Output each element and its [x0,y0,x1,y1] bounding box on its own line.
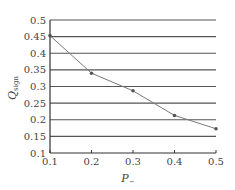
y-tick-label: 0.35 [24,64,46,75]
data-point [48,34,52,38]
y-tick-label: 0.3 [30,81,46,92]
y-tick-label: 0.2 [30,114,46,125]
y-tick-label: 0.5 [30,15,46,26]
data-point [131,89,135,93]
x-tick-labels: 0.10.20.30.40.5 [42,156,224,167]
horizontal-gridlines [50,20,216,136]
series-line [50,36,216,129]
x-tick-label: 0.4 [167,156,183,167]
y-axis-label: Qsign [6,76,20,100]
y-tick-label: 0.4 [30,48,46,59]
x-tick-label: 0.2 [84,156,100,167]
x-axis-label: P− [120,172,134,186]
x-tick-label: 0.1 [42,156,58,167]
line-chart: 0.10.150.20.250.30.350.40.450.5 0.10.20.… [0,0,235,190]
data-point [214,127,218,131]
y-tick-labels: 0.10.150.20.250.30.350.40.450.5 [24,15,46,159]
y-tick-label: 0.15 [24,131,46,142]
y-tick-label: 0.25 [24,98,46,109]
x-tick-label: 0.3 [125,156,141,167]
y-tick-label: 0.45 [24,31,46,42]
data-series [48,34,218,131]
data-point [173,114,177,118]
x-tick-label: 0.5 [208,156,224,167]
data-point [90,71,94,75]
